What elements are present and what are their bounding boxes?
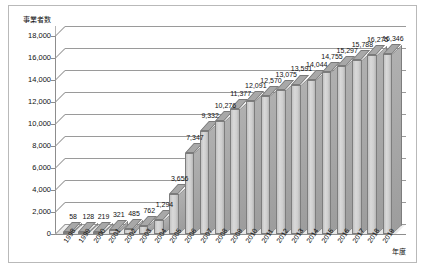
y-axis-tick-label: 10,000 <box>28 120 51 128</box>
bar-front-face <box>322 72 331 234</box>
plot-area: 581282193214857621,2943,6567,3479,33210,… <box>55 36 406 234</box>
gridline-riser <box>55 92 66 103</box>
bar <box>322 72 331 234</box>
y-axis-tick-labels: 18,00016,00014,00012,00010,0008,0006,000… <box>9 36 51 234</box>
y-axis-tick-mark <box>51 168 55 169</box>
data-label: 219 <box>98 213 110 220</box>
data-label: 1,294 <box>156 201 174 208</box>
gridline <box>65 26 406 27</box>
bar <box>276 90 285 234</box>
data-label: 485 <box>128 210 140 217</box>
y-axis-tick-mark <box>51 190 55 191</box>
bar <box>215 121 224 234</box>
bar <box>383 54 392 234</box>
y-axis-tick-mark <box>51 124 55 125</box>
bar-front-face <box>215 121 224 234</box>
data-label: 58 <box>69 213 77 220</box>
x-axis-title: 年度 <box>392 246 406 256</box>
bar-front-face <box>276 90 285 234</box>
data-label: 128 <box>82 213 94 220</box>
value-axis <box>55 36 56 234</box>
bar <box>352 60 361 234</box>
x-axis-tick-labels: 1998199920002001200220032004200520062007… <box>55 238 406 272</box>
gridline-riser <box>55 70 66 81</box>
bar <box>307 80 316 234</box>
y-axis-tick-mark <box>51 36 55 37</box>
bar-front-face <box>291 85 300 235</box>
gridline-riser <box>55 114 66 125</box>
gridline-riser <box>55 26 66 37</box>
y-axis-tick-label: 16,000 <box>28 54 51 62</box>
bar <box>246 101 255 234</box>
bar-front-face <box>246 101 255 234</box>
gridline-riser <box>55 158 66 169</box>
y-axis-tick-mark <box>51 80 55 81</box>
data-label: 3,656 <box>171 175 189 182</box>
data-label: 9,332 <box>201 112 219 119</box>
bar-front-face <box>261 96 270 234</box>
y-axis-tick-mark <box>51 212 55 213</box>
bar-front-face <box>337 66 346 234</box>
data-label: 762 <box>143 207 155 214</box>
y-axis-tick-label: 2,000 <box>32 208 51 216</box>
bar <box>337 66 346 234</box>
data-label: 10,276 <box>215 102 236 109</box>
gridline-riser <box>55 202 66 213</box>
y-axis-tick-label: 6,000 <box>32 164 51 172</box>
gridline-riser <box>55 136 66 147</box>
y-axis-tick-mark <box>51 102 55 103</box>
gridline-riser <box>55 48 66 59</box>
bar-front-face <box>307 80 316 234</box>
y-axis-tick-mark <box>51 58 55 59</box>
data-label: 321 <box>113 211 125 218</box>
y-axis-tick-label: 4,000 <box>32 186 51 194</box>
y-axis-tick-mark <box>51 234 55 235</box>
bar <box>185 153 194 234</box>
y-axis-tick-mark <box>51 146 55 147</box>
data-label: 11,377 <box>230 90 251 97</box>
y-axis-tick-label: 18,000 <box>28 32 51 40</box>
bar-front-face <box>185 153 194 234</box>
bar-front-face <box>367 55 376 234</box>
y-axis-tick-label: 12,000 <box>28 98 51 106</box>
data-label: 16,346 <box>382 35 403 42</box>
bar <box>367 55 376 234</box>
chart-frame: 事業者数 18,00016,00014,00012,00010,0008,000… <box>8 5 417 263</box>
bar-front-face <box>200 131 209 234</box>
bar <box>200 131 209 234</box>
gridline-riser <box>55 180 66 191</box>
data-label: 7,347 <box>186 134 204 141</box>
data-label: 14,044 <box>306 61 327 68</box>
data-label: 14,755 <box>321 53 342 60</box>
bar <box>291 85 300 235</box>
bar-front-face <box>230 109 239 234</box>
bar-front-face <box>383 54 392 234</box>
bar <box>261 96 270 234</box>
y-axis-tick-label: 14,000 <box>28 76 51 84</box>
y-axis-tick-label: 8,000 <box>32 142 51 150</box>
y-axis-title: 事業者数 <box>23 14 51 24</box>
bar-front-face <box>352 60 361 234</box>
bar <box>230 109 239 234</box>
bar-side-face <box>392 45 402 234</box>
